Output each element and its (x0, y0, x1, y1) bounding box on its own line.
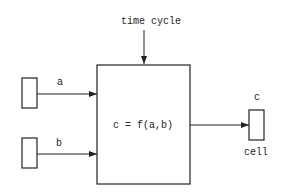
input-cell-b (22, 138, 37, 168)
function-cell-diagram: time cycle c = f(a,b) a b c cell (0, 0, 282, 193)
input-label-b: b (56, 138, 62, 149)
input-label-a: a (57, 77, 63, 88)
time-cycle-label: time cycle (121, 16, 181, 27)
function-formula: c = f(a,b) (113, 120, 173, 131)
input-cell-a (22, 78, 37, 108)
output-cell-caption: cell (244, 147, 268, 158)
output-cell (249, 110, 264, 140)
output-label-c: c (254, 92, 260, 103)
